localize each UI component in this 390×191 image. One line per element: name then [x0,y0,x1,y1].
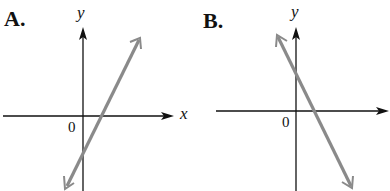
graph-a-plot [0,0,195,191]
graph-b-plot [195,0,390,191]
graph-panel-a: A. y x 0 [0,0,195,191]
graph-panel-b: B. y 0 [195,0,390,191]
plotted-line-a [67,40,139,186]
